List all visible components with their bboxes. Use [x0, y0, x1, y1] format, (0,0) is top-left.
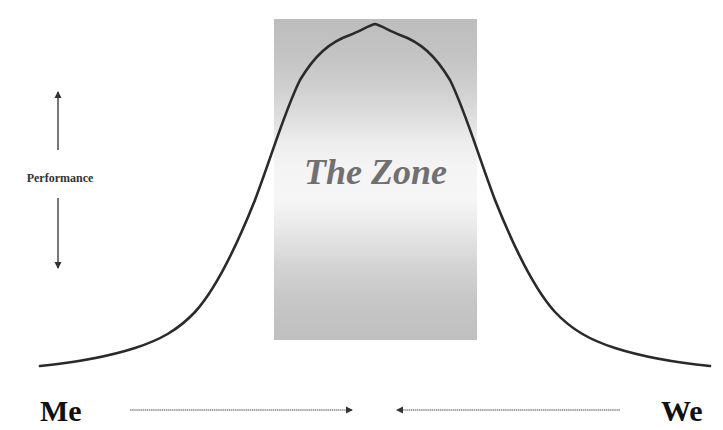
we-label: We	[661, 394, 703, 428]
performance-axis-label: Performance	[10, 170, 110, 186]
diagram-graphics	[0, 0, 723, 430]
me-label: Me	[40, 394, 82, 428]
zone-label: The Zone	[274, 150, 477, 194]
performance-bell-curve	[40, 24, 710, 366]
